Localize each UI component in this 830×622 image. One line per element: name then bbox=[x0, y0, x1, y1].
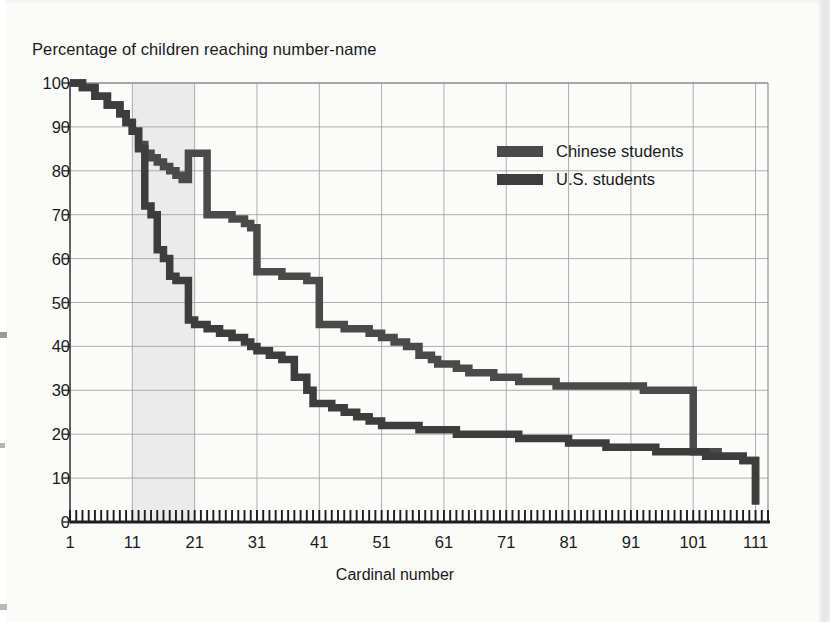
x-tick-label: 81 bbox=[559, 533, 577, 552]
legend-label: Chinese students bbox=[556, 142, 684, 161]
y-tick-label: 10 bbox=[26, 469, 70, 488]
x-tick-label: 41 bbox=[310, 533, 328, 552]
y-tick-label: 0 bbox=[26, 513, 70, 532]
x-tick-label: 71 bbox=[497, 533, 515, 552]
x-tick-label: 61 bbox=[435, 533, 453, 552]
legend-swatch-icon bbox=[497, 174, 543, 185]
y-tick-label: 20 bbox=[26, 425, 70, 444]
y-tick-label: 30 bbox=[26, 381, 70, 400]
y-tick-label: 90 bbox=[26, 117, 70, 136]
legend-swatch-icon bbox=[497, 146, 543, 157]
x-tick-label: 11 bbox=[124, 533, 141, 552]
x-axis-title: Cardinal number bbox=[0, 566, 790, 584]
chart-svg bbox=[0, 0, 830, 622]
y-tick-label: 80 bbox=[26, 161, 70, 180]
x-tick-label: 91 bbox=[622, 533, 640, 552]
chart-legend: Chinese studentsU.S. students bbox=[497, 142, 684, 198]
legend-item: Chinese students bbox=[497, 142, 684, 161]
x-tick-label: 101 bbox=[679, 533, 707, 552]
x-tick-label: 21 bbox=[185, 533, 203, 552]
y-tick-label: 70 bbox=[26, 205, 70, 224]
x-tick-label: 111 bbox=[743, 533, 768, 552]
x-tick-label: 51 bbox=[372, 533, 390, 552]
y-tick-label: 100 bbox=[26, 74, 70, 93]
y-tick-label: 50 bbox=[26, 293, 70, 312]
y-tick-label: 60 bbox=[26, 249, 70, 268]
x-tick-label: 31 bbox=[248, 533, 266, 552]
legend-item: U.S. students bbox=[497, 170, 684, 189]
y-tick-label: 40 bbox=[26, 337, 70, 356]
y-axis-labels: 1009080706050403020100 bbox=[24, 0, 70, 622]
x-tick-label: 1 bbox=[65, 533, 74, 552]
legend-label: U.S. students bbox=[556, 170, 655, 189]
chart-plot-area bbox=[0, 0, 830, 622]
